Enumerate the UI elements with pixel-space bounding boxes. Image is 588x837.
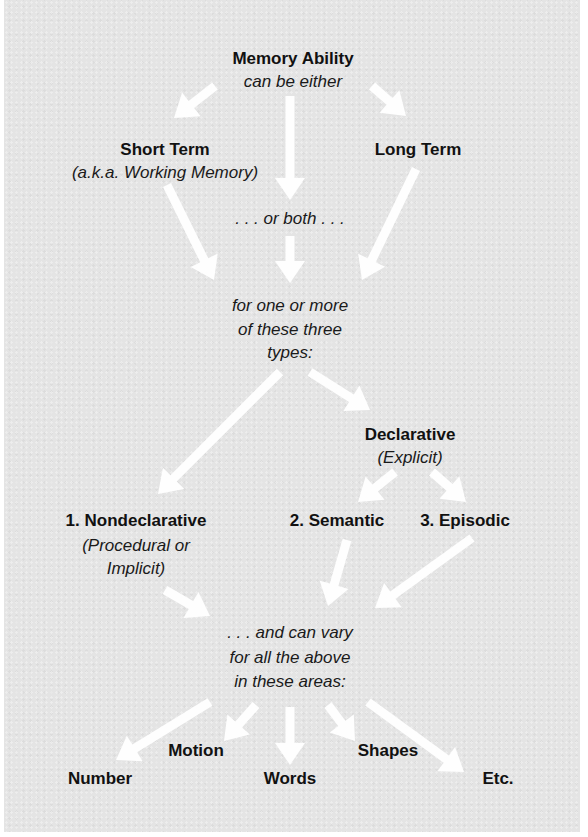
node-episodic: 3. Episodic [420, 512, 510, 529]
arrow-icon-types_intro-to-declarative [308, 368, 370, 411]
node-types-intro-line-2: of these three [238, 321, 342, 338]
arrow-icon-nondeclarative-to-areas_intro [163, 586, 210, 618]
arrow-icon-areas_intro-to-shapes [324, 702, 355, 741]
node-nondeclarative: 1. Nondeclarative [66, 512, 207, 529]
node-memory-ability-sub: can be either [244, 73, 342, 90]
node-areas-intro-line-2: for all the above [230, 649, 351, 666]
arrow-icon-root-to-long_term [369, 83, 406, 116]
node-nondeclarative-sub-line-1: (Procedural or [82, 537, 190, 554]
node-areas-intro-line-3: in these areas: [234, 673, 346, 690]
arrow-icon-short_term-to-types_intro [163, 183, 218, 280]
node-area-etc: Etc. [482, 770, 513, 787]
node-declarative-sub: (Explicit) [377, 449, 442, 466]
node-areas-intro-line-1: . . . and can vary [227, 624, 353, 641]
node-area-words: Words [264, 770, 317, 787]
node-nondeclarative-sub-line-2: Implicit) [107, 560, 166, 577]
arrow-icon-semantic-to-areas_intro [320, 539, 352, 606]
arrow-icon-root-to-or_both [275, 96, 305, 200]
node-area-motion: Motion [168, 742, 224, 759]
node-memory-ability: Memory Ability [232, 50, 353, 67]
arrow-icon-types_intro-to-nondeclarative [158, 369, 283, 494]
arrows-layer [0, 0, 588, 837]
node-types-intro-line-3: types: [267, 344, 312, 361]
node-semantic: 2. Semantic [290, 512, 385, 529]
node-types-intro-line-1: for one or more [232, 297, 348, 314]
node-long-term: Long Term [375, 141, 462, 158]
node-or-both: . . . or both . . . [235, 210, 345, 227]
node-short-term-sub: (a.k.a. Working Memory) [72, 164, 258, 181]
node-area-shapes: Shapes [358, 742, 418, 759]
node-short-term: Short Term [120, 141, 209, 158]
arrow-icon-areas_intro-to-motion [224, 702, 259, 741]
node-area-number: Number [68, 770, 132, 787]
arrow-icon-root-to-short_term [174, 83, 218, 119]
arrow-icon-areas_intro-to-words [275, 707, 305, 765]
arrow-icon-or_both-to-types_intro [275, 236, 305, 283]
node-declarative: Declarative [365, 426, 456, 443]
arrow-icon-declarative-to-episodic [429, 469, 466, 502]
arrow-icon-declarative-to-semantic [358, 469, 398, 503]
arrow-icon-episodic-to-areas_intro [375, 534, 475, 608]
arrow-icon-areas_intro-to-etc [365, 698, 464, 772]
arrow-icon-long_term-to-types_intro [358, 167, 420, 280]
